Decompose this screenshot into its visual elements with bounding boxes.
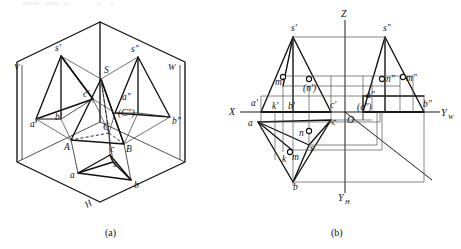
- label-b-m-front: m': [275, 77, 285, 87]
- label-a-a-side: a": [122, 92, 132, 102]
- label-b-s-front: s': [291, 23, 298, 33]
- label-b-n-top: n: [299, 128, 304, 138]
- label-b-b-side: b": [423, 99, 433, 109]
- axis-label-YW-sub: W: [448, 113, 454, 120]
- caption-b: (b): [331, 227, 343, 239]
- label-a-s-side: s": [131, 44, 140, 54]
- label-b-s-top: s: [310, 143, 314, 153]
- axis-label-O: O: [347, 114, 354, 125]
- technical-drawing-svg: V W H s' s" S c' a" (C") a' b' C b" A B …: [0, 0, 461, 249]
- label-b-a-front: a': [251, 98, 259, 108]
- label-a-c-side: (C"): [118, 108, 135, 119]
- label-b-b-front: b': [288, 101, 296, 111]
- label-b-m-side: m": [406, 73, 418, 83]
- label-b-n-side: n": [386, 74, 396, 84]
- label-a-C: C: [103, 122, 110, 132]
- label-a-b-front: b': [55, 112, 63, 122]
- axis-label-X: X: [228, 106, 236, 117]
- figure-canvas: V W H s' s" S c' a" (C") a' b' C b" A B …: [0, 0, 461, 249]
- label-b-k-front: k': [272, 101, 279, 111]
- marker-n-front: [306, 76, 311, 81]
- label-a-A: A: [63, 142, 70, 152]
- label-b-a-side: a": [366, 90, 376, 100]
- label-b-m-top: m: [292, 152, 299, 162]
- label-a-a-top: a: [70, 170, 75, 180]
- label-a-S: S: [104, 65, 109, 75]
- label-a-a-front: a': [30, 119, 38, 129]
- caption-a: (a): [105, 227, 116, 239]
- label-b-n-front: (n'): [303, 83, 316, 94]
- axis-label-YH-sub: H: [344, 198, 350, 205]
- label-b-s-side: s": [383, 23, 392, 33]
- label-a-b-side: b": [172, 116, 182, 126]
- label-b-a-top: a: [248, 118, 253, 128]
- label-a-B: B: [126, 144, 132, 154]
- label-b-c-side: (c"): [357, 102, 372, 113]
- axis-label-Z: Z: [341, 8, 347, 19]
- marker-n-side: [379, 76, 384, 81]
- marker-n-top: [306, 128, 311, 133]
- label-b-c-front: c': [330, 100, 337, 110]
- top-crop-artifact: [22, 2, 114, 5]
- label-a-c-front: c': [83, 89, 90, 99]
- marker-m-side: [400, 74, 405, 79]
- label-a-b-top: b: [134, 180, 139, 190]
- label-b-b-top: b: [293, 182, 298, 192]
- label-a-s-top: s: [113, 159, 117, 169]
- label-a-s-front: s': [55, 43, 62, 53]
